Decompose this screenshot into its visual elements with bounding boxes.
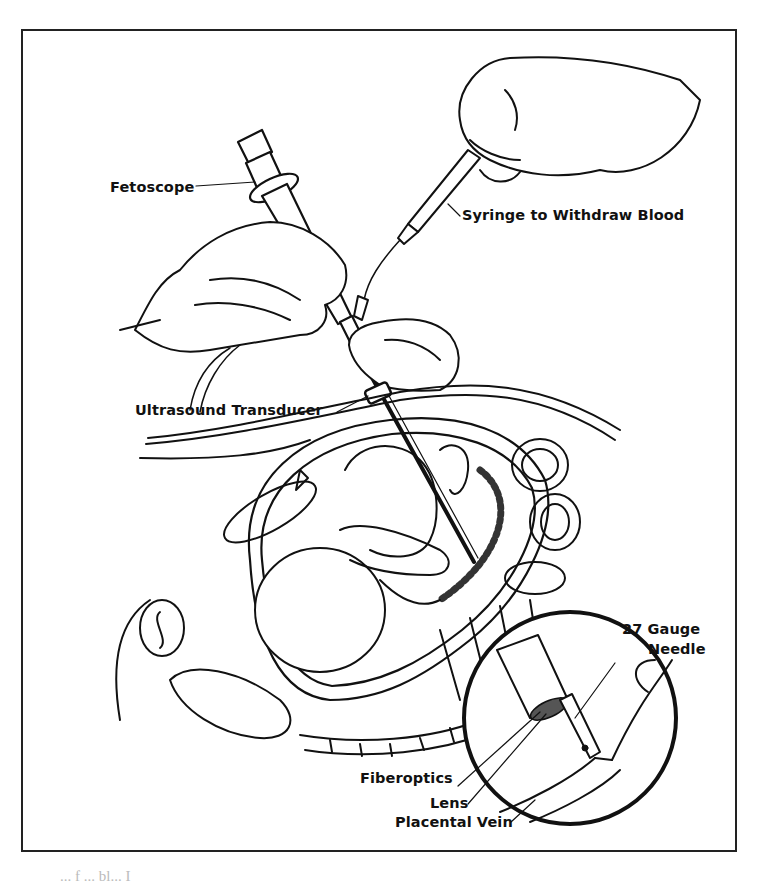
label-lens: Lens <box>430 796 468 811</box>
fetus <box>255 445 468 672</box>
hand-holding-fetoscope-icon <box>120 222 346 412</box>
magnified-inset <box>464 612 676 824</box>
label-27-gauge: 27 Gauge <box>622 622 700 637</box>
fetoscopy-illustration <box>0 0 761 891</box>
hand-holding-syringe-icon <box>459 57 700 181</box>
label-needle: Needle <box>648 642 706 657</box>
label-fetoscope: Fetoscope <box>110 180 194 195</box>
caption-fragment: ... f ... bl... I <box>60 868 130 885</box>
label-syringe: Syringe to Withdraw Blood <box>462 208 684 223</box>
syringe-icon <box>354 150 480 320</box>
label-placental-vein: Placental Vein <box>395 815 513 830</box>
label-fiberoptics: Fiberoptics <box>360 771 453 786</box>
label-ultrasound-transducer: Ultrasound Transducer <box>135 403 323 418</box>
